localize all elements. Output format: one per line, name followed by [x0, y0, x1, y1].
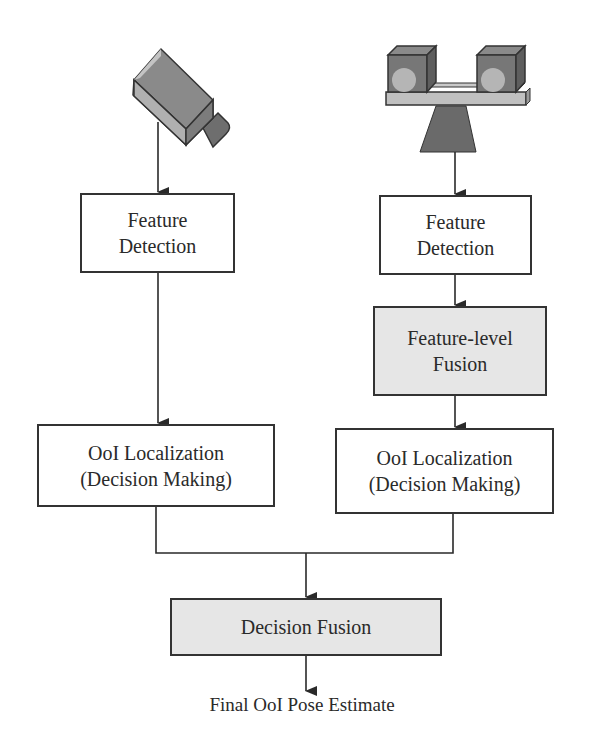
left-feature-detection-line1: Feature [119, 207, 197, 233]
right-feature-detection-box: Feature Detection [379, 195, 532, 275]
stereo-camera-icon [386, 46, 530, 152]
right-localization-line1: OoI Localization [369, 445, 521, 471]
left-feature-detection-box: Feature Detection [80, 193, 235, 273]
left-localization-line1: OoI Localization [80, 440, 232, 466]
decision-fusion-label: Decision Fusion [241, 614, 372, 640]
right-localization-box: OoI Localization (Decision Making) [335, 428, 554, 514]
left-feature-detection-line2: Detection [119, 233, 197, 259]
feature-level-fusion-box: Feature-level Fusion [373, 306, 547, 396]
left-localization-box: OoI Localization (Decision Making) [37, 424, 275, 507]
decision-fusion-box: Decision Fusion [170, 598, 442, 656]
left-localization-line2: (Decision Making) [80, 466, 232, 492]
feature-fusion-line2: Fusion [407, 351, 513, 377]
right-feature-detection-line1: Feature [417, 209, 495, 235]
feature-fusion-line1: Feature-level [407, 325, 513, 351]
right-localization-line2: (Decision Making) [369, 471, 521, 497]
right-feature-detection-line2: Detection [417, 235, 495, 261]
final-pose-estimate-label: Final OoI Pose Estimate [0, 694, 604, 716]
single-camera-icon [133, 49, 230, 147]
